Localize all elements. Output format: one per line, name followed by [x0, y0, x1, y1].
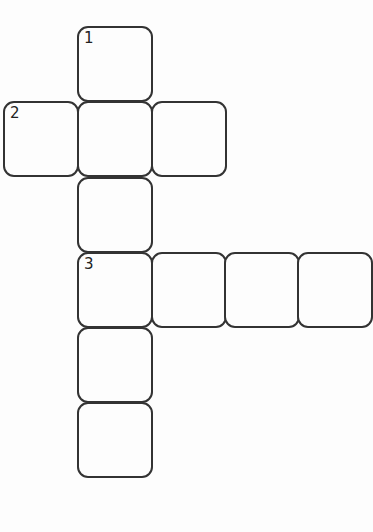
cell[interactable] — [77, 402, 153, 478]
cell-3-across-start[interactable]: 3 — [77, 252, 153, 328]
cell-1-down-start[interactable]: 1 — [77, 26, 153, 102]
cell[interactable] — [151, 252, 227, 328]
cell[interactable] — [77, 327, 153, 403]
cell[interactable] — [77, 101, 153, 177]
cell[interactable] — [297, 252, 373, 328]
clue-number-1: 1 — [84, 31, 94, 46]
clue-number-2: 2 — [10, 106, 20, 121]
clue-number-3: 3 — [84, 257, 94, 272]
cell[interactable] — [224, 252, 300, 328]
cell-2-across-start[interactable]: 2 — [3, 101, 79, 177]
cell[interactable] — [77, 177, 153, 253]
cell[interactable] — [151, 101, 227, 177]
